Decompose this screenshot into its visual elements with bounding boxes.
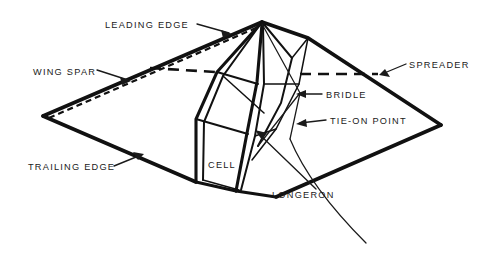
label-trailing-edge: TRAILING EDGE — [28, 162, 115, 172]
left-trailing-edge-line — [43, 116, 196, 182]
label-cell: CELL — [208, 160, 236, 170]
label-leading-edge: LEADING EDGE — [105, 20, 189, 30]
label-longeron: LONGERON — [272, 190, 335, 200]
kite-cell-structure — [196, 22, 308, 197]
diagram-labels: LEADING EDGE WING SPAR TRAILING EDGE SPR… — [28, 20, 470, 200]
kite-diagram: LEADING EDGE WING SPAR TRAILING EDGE SPR… — [0, 0, 494, 254]
tie-on-point-arrowhead — [296, 119, 307, 127]
label-wing-spar: WING SPAR — [33, 67, 96, 77]
label-spreader: SPREADER — [409, 60, 470, 70]
keel-bottom-right-closure — [236, 191, 276, 197]
longeron-leader — [258, 133, 316, 189]
label-tie-on-point: TIE-ON POINT — [330, 116, 407, 126]
spreader-arrowhead — [379, 69, 390, 77]
label-bridle: BRIDLE — [326, 90, 367, 100]
kite-diagram-canvas: LEADING EDGE WING SPAR TRAILING EDGE SPR… — [0, 0, 494, 254]
bridle-group — [258, 24, 366, 243]
